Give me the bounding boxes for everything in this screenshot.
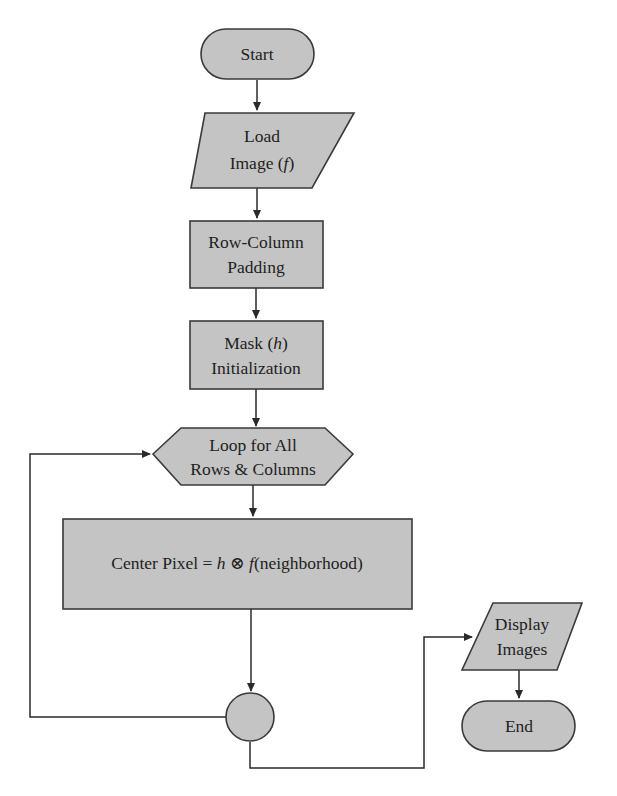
node-padding: Row-Column Padding	[190, 221, 323, 288]
node-loop: Loop for All Rows & Columns	[153, 428, 353, 485]
display-line1: Display	[495, 614, 550, 634]
padding-line1: Row-Column	[208, 232, 304, 252]
node-connector	[226, 693, 274, 741]
loop-line2: Rows & Columns	[190, 459, 316, 479]
node-center-pixel: Center Pixel = h ⊗ f(neighborhood)	[63, 519, 412, 609]
mask-init-line1: Mask (h)	[224, 333, 288, 353]
node-mask-init: Mask (h) Initialization	[190, 321, 323, 389]
edge-connector-display	[250, 637, 472, 768]
mask-init-rect	[190, 321, 323, 389]
loop-line1: Loop for All	[209, 435, 297, 455]
node-end: End	[462, 701, 575, 751]
start-label: Start	[240, 44, 273, 64]
mask-init-line2: Initialization	[211, 358, 301, 378]
node-load-image: Load Image (f)	[191, 113, 354, 188]
load-image-line1: Load	[244, 126, 280, 146]
node-start: Start	[201, 29, 314, 79]
node-display: Display Images	[462, 603, 582, 670]
end-label: End	[505, 716, 533, 736]
connector-circle	[226, 693, 274, 741]
padding-line2: Padding	[227, 257, 285, 277]
load-image-line2: Image (f)	[230, 153, 295, 173]
center-pixel-label: Center Pixel = h ⊗ f(neighborhood)	[111, 553, 363, 573]
load-image-parallelogram	[191, 113, 354, 188]
display-line2: Images	[497, 639, 548, 659]
flowchart: Start Load Image (f) Row-Column Padding …	[0, 0, 617, 796]
